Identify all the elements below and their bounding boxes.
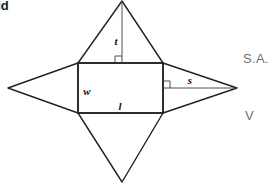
measurement-lines (122, 1, 237, 88)
right-angle-marker-right-icon (163, 81, 170, 88)
right-angle-marker-top-icon (115, 56, 122, 63)
left-triangle-face (8, 63, 78, 113)
rectangular-pyramid-net-diagram: t w l s (0, 0, 276, 184)
label-length: l (118, 100, 122, 112)
bottom-triangle-face (78, 113, 163, 182)
top-triangle-face (78, 1, 163, 63)
dimension-labels: t w l s (83, 35, 192, 112)
surface-area-label: S.A. (243, 51, 269, 66)
pyramid-net-figure: mid t w l s S.A. V (0, 0, 276, 184)
label-slant-height-top: t (114, 35, 118, 47)
label-width: w (83, 85, 91, 97)
volume-label: V (245, 108, 254, 123)
label-slant-height-side: s (187, 74, 192, 86)
net-outline (8, 1, 237, 182)
